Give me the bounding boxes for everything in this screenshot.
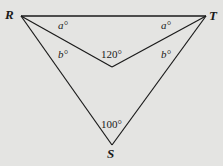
angle-label-inner: 120°: [101, 49, 122, 60]
angle-label-b-right: b°: [161, 49, 171, 60]
vertex-label-r: R: [5, 8, 14, 21]
segment-tp: [112, 16, 206, 67]
segment-ts: [112, 16, 206, 145]
angle-label-a-right: a°: [161, 20, 171, 31]
triangle-figure: [0, 0, 223, 166]
angle-label-b-left: b°: [58, 49, 68, 60]
vertex-label-s: S: [107, 147, 114, 160]
angle-label-bottom: 100°: [101, 119, 122, 130]
segment-rs: [21, 16, 112, 145]
angle-label-a-left: a°: [58, 20, 68, 31]
vertex-label-t: T: [209, 9, 217, 22]
